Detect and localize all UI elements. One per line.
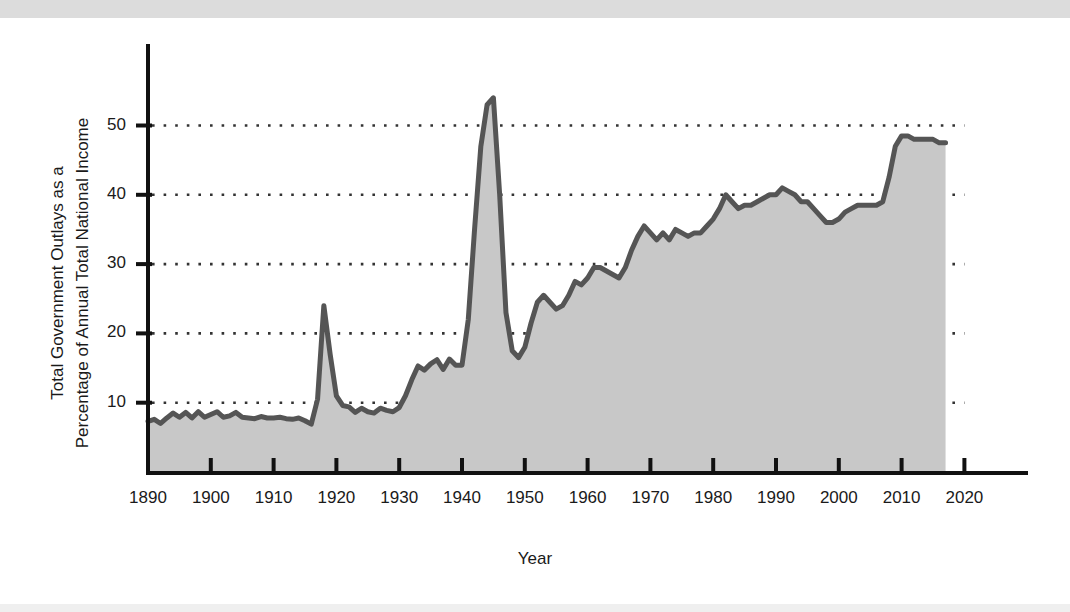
x-tick-label: 2000 [809,488,869,508]
y-tick-label: 40 [86,184,126,204]
x-tick-label: 1890 [118,488,178,508]
chart-figure: Total Government Outlays as a Percentage… [0,0,1070,612]
data-area [148,98,946,472]
x-tick-label: 1920 [306,488,366,508]
x-tick-label: 1930 [369,488,429,508]
x-tick-label: 2020 [934,488,994,508]
x-tick-label: 1940 [432,488,492,508]
x-axis-title: Year [0,549,1070,569]
x-tick-label: 1990 [746,488,806,508]
x-tick-label: 1900 [181,488,241,508]
y-tick-label: 20 [86,322,126,342]
x-tick-label: 1980 [683,488,743,508]
y-tick-label: 50 [86,115,126,135]
y-tick-label: 30 [86,253,126,273]
y-tick-label: 10 [86,392,126,412]
area-chart-svg [0,0,1070,612]
x-tick-label: 1950 [495,488,555,508]
x-tick-label: 1970 [620,488,680,508]
x-tick-label: 1910 [244,488,304,508]
x-tick-label: 2010 [872,488,932,508]
x-tick-label: 1960 [558,488,618,508]
